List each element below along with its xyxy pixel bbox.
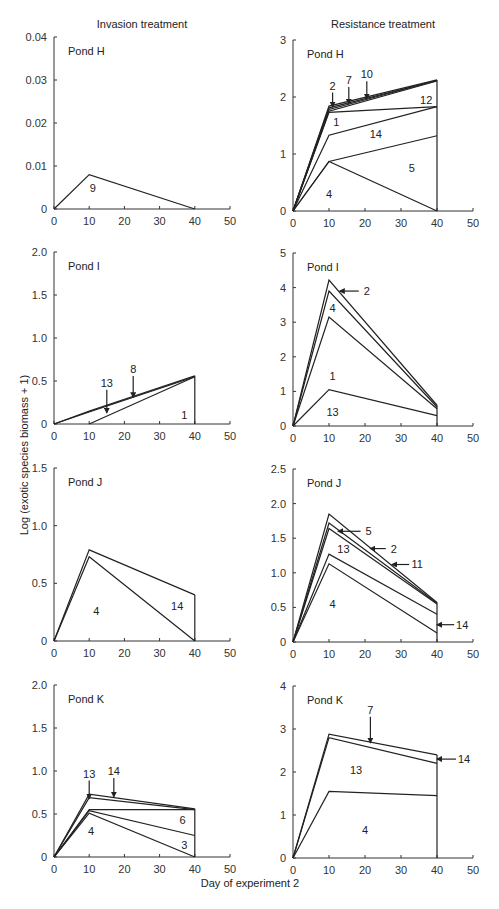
y-axis-label: Log (exotic species biomass + 1) <box>18 375 30 536</box>
panel-invasion-H: 0102030405000.010.020.030.04Pond H9 <box>26 31 237 227</box>
series-label: 4 <box>326 188 332 200</box>
series-label: 4 <box>330 598 336 610</box>
series-label: 14 <box>108 765 120 777</box>
series-label: 4 <box>362 824 368 836</box>
panel-invasion-J: 0102030405000.51.01.5Pond J414 <box>32 462 236 659</box>
panel-label: Pond I <box>307 261 339 273</box>
series-label: 12 <box>420 94 432 106</box>
x-tick-label: 10 <box>323 217 335 229</box>
x-tick-label: 10 <box>83 647 95 659</box>
x-tick-label: 30 <box>153 863 165 875</box>
series-label: 10 <box>361 68 373 80</box>
y-tick-label: 0.5 <box>32 808 47 820</box>
y-tick-label: 0.02 <box>26 117 47 129</box>
x-tick-label: 40 <box>189 647 201 659</box>
x-tick-label: 0 <box>51 647 57 659</box>
series-13 <box>293 390 437 426</box>
panel-label: Pond I <box>68 260 100 272</box>
y-tick-label: 3 <box>280 34 286 46</box>
x-tick-label: 0 <box>290 864 296 876</box>
x-tick-label: 30 <box>395 432 407 444</box>
y-tick-label: 2.0 <box>271 498 286 510</box>
y-tick-label: 0 <box>41 851 47 863</box>
x-tick-label: 10 <box>323 648 335 660</box>
series-4 <box>54 557 195 641</box>
series-label: 1 <box>330 370 336 382</box>
y-tick-label: 0 <box>41 418 47 430</box>
x-tick-label: 10 <box>83 215 95 227</box>
y-tick-label: 1.0 <box>271 567 286 579</box>
series-label: 14 <box>456 619 468 631</box>
series-label: 7 <box>367 704 373 716</box>
y-tick-label: 1.0 <box>32 765 47 777</box>
y-tick-label: 0 <box>280 420 286 432</box>
y-tick-label: 1.5 <box>271 532 286 544</box>
x-tick-label: 0 <box>290 432 296 444</box>
series-label: 3 <box>181 839 187 851</box>
series-label: 7 <box>346 74 352 86</box>
x-tick-label: 10 <box>83 430 95 442</box>
series-label: 13 <box>350 764 362 776</box>
x-tick-label: 0 <box>290 217 296 229</box>
series-label: 2 <box>391 543 397 555</box>
x-tick-label: 40 <box>431 648 443 660</box>
series-14 <box>54 550 195 641</box>
x-tick-label: 50 <box>467 432 479 444</box>
series-label: 2 <box>364 285 370 297</box>
y-tick-label: 0.03 <box>26 74 47 86</box>
series-label: 9 <box>90 182 96 194</box>
x-tick-label: 30 <box>153 430 165 442</box>
x-axis-label: Day of experiment 2 <box>201 877 299 889</box>
series-14 <box>293 107 437 211</box>
series-8 <box>54 376 195 424</box>
y-tick-label: 0.5 <box>271 601 286 613</box>
x-tick-label: 50 <box>467 648 479 660</box>
y-tick-label: 1 <box>280 148 286 160</box>
y-tick-label: 4 <box>280 282 286 294</box>
y-tick-label: 3 <box>280 316 286 328</box>
series-1 <box>293 317 437 426</box>
x-tick-label: 20 <box>359 648 371 660</box>
x-tick-label: 40 <box>189 863 201 875</box>
y-tick-label: 2.0 <box>32 246 47 258</box>
series-12 <box>293 81 437 211</box>
x-tick-label: 50 <box>467 864 479 876</box>
y-tick-label: 0 <box>41 203 47 215</box>
x-tick-label: 50 <box>224 430 236 442</box>
series-13 <box>54 377 195 424</box>
y-tick-label: 0 <box>280 636 286 648</box>
y-tick-label: 2 <box>280 351 286 363</box>
series-label: 4 <box>88 825 94 837</box>
series-label: 13 <box>337 543 349 555</box>
column-title-invasion: Invasion treatment <box>97 18 188 30</box>
series-label: 5 <box>366 525 372 537</box>
panel-invasion-K: 0102030405000.51.01.52.0Pond K4361314 <box>32 679 236 875</box>
series-3 <box>54 811 195 857</box>
series-4 <box>293 161 437 211</box>
panel-resistance-K: 0102030405001234Pond K413714 <box>280 680 479 876</box>
x-tick-label: 50 <box>467 217 479 229</box>
x-tick-label: 40 <box>431 217 443 229</box>
series-label: 11 <box>411 558 422 570</box>
y-tick-label: 1.0 <box>32 520 47 532</box>
series-9 <box>54 175 195 209</box>
series-label: 4 <box>330 302 336 314</box>
y-tick-label: 1.0 <box>32 332 47 344</box>
y-tick-label: 0 <box>280 852 286 864</box>
x-tick-label: 20 <box>359 864 371 876</box>
x-tick-label: 20 <box>359 432 371 444</box>
y-tick-label: 2.5 <box>271 463 286 475</box>
panel-resistance-H: 010203040500123Pond H45141122710 <box>280 34 479 229</box>
y-tick-label: 4 <box>280 680 286 692</box>
column-title-resistance: Resistance treatment <box>331 18 435 30</box>
y-tick-label: 1 <box>280 385 286 397</box>
x-tick-label: 30 <box>395 864 407 876</box>
series-4 <box>293 291 437 426</box>
x-tick-label: 20 <box>359 217 371 229</box>
y-tick-label: 0.01 <box>26 160 47 172</box>
x-tick-label: 20 <box>118 647 130 659</box>
series-label: 8 <box>130 363 136 375</box>
x-tick-label: 10 <box>83 863 95 875</box>
x-tick-label: 30 <box>395 217 407 229</box>
series-label: 2 <box>330 80 336 92</box>
